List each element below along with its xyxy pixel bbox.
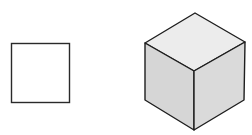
cube-shape (145, 13, 245, 130)
figure-canvas (0, 0, 252, 135)
square-shape (12, 44, 70, 103)
